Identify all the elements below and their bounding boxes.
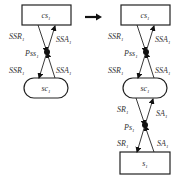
label-ps1: Ps1 — [123, 123, 135, 133]
edge-ssr-top — [38, 25, 47, 52]
edge-ssa-top — [146, 26, 154, 52]
label-pss1: Pss1 — [24, 49, 39, 59]
edge-ssa-bottom — [47, 53, 55, 78]
label-sa-bottom: SA1 — [157, 139, 168, 149]
refinement-diagram: cs1 sc1 SSR1 SSA1 Pss1 SSR1 SSA1 cs1 sc1… — [0, 0, 189, 184]
junction-pss1 — [143, 49, 149, 55]
label-sa-top: SA1 — [156, 109, 167, 119]
label-ssa-top: SSA1 — [155, 35, 170, 45]
edge-ssr-bottom — [138, 52, 146, 78]
label-ssa-bottom: SSA1 — [155, 66, 170, 76]
label-ssr-bottom: SSR1 — [9, 66, 24, 76]
junction-pss1 — [44, 49, 50, 55]
label-ssr-bottom: SSR1 — [108, 66, 123, 76]
edge-sa-top — [145, 99, 153, 125]
edge-ssr-top — [137, 25, 146, 52]
edge-ssr-bottom — [39, 52, 47, 78]
label-ssa-top: SSA1 — [56, 35, 71, 45]
right-arrow-icon — [85, 14, 102, 21]
edge-sr-bottom — [137, 125, 145, 152]
right-diagram: cs1 sc1 s1 SSR1 SSA1 Pss1 SSR1 SSA1 SR1 … — [108, 5, 170, 174]
label-ssr-top: SSR1 — [108, 32, 123, 42]
label-ssr-top: SSR1 — [9, 32, 24, 42]
edge-ssa-top — [47, 26, 55, 52]
label-sr-top: SR1 — [117, 105, 128, 115]
edge-ssa-bottom — [146, 53, 154, 78]
edge-sr-top — [136, 98, 145, 125]
label-sr-bottom: SR1 — [117, 139, 128, 149]
left-diagram: cs1 sc1 SSR1 SSA1 Pss1 SSR1 SSA1 — [9, 5, 71, 98]
label-ssa-bottom: SSA1 — [56, 66, 71, 76]
label-pss1: Pss1 — [123, 49, 138, 59]
junction-ps1 — [142, 122, 148, 128]
edge-sa-bottom — [145, 126, 154, 152]
